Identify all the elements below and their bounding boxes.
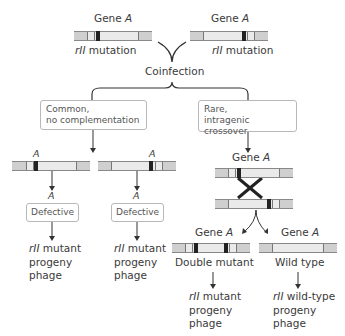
defective-label: Defective <box>116 207 159 217</box>
gene-a-label-left: Gene A <box>94 12 132 24</box>
a-label: A <box>133 190 140 201</box>
mutation-marker <box>237 168 241 178</box>
a-label: A <box>149 148 156 159</box>
chromosome-crossover-top <box>215 168 293 178</box>
defective-label: Defective <box>31 207 74 217</box>
common-no-complementation-box: Common, no complementation <box>40 100 147 130</box>
mutation-marker <box>242 31 246 41</box>
mutation-marker <box>149 161 153 171</box>
a-label: A <box>48 190 55 201</box>
chromosome-defective-right <box>98 161 176 171</box>
mutation-marker <box>267 199 271 209</box>
box-line: intragenic crossover <box>204 115 291 137</box>
chromosome-defective-left <box>12 161 90 171</box>
mutation-marker <box>194 243 198 253</box>
outcome-rii-wild-type: rII wild-type progeny phage <box>273 290 335 331</box>
box-line: no complementation <box>46 115 141 126</box>
outcome-rii-mutant-double: rII mutant progeny phage <box>189 290 241 331</box>
gene-a-label-double: Gene A <box>195 226 233 238</box>
defective-box-right: Defective <box>111 203 164 222</box>
chromosome-right-mutant <box>190 31 268 41</box>
chromosome-wild-type <box>259 243 337 253</box>
mutation-marker <box>96 31 100 41</box>
a-label: A <box>33 148 40 159</box>
outcome-rii-mutant-middle: rII mutant progeny phage <box>114 242 166 283</box>
gene-a-label-wild: Gene A <box>281 226 319 238</box>
mutation-marker <box>34 161 38 171</box>
gene-a-label-right: Gene A <box>211 12 249 24</box>
double-mutant-label: Double mutant <box>175 256 254 268</box>
gene-a-label-crossover: Gene A <box>232 151 270 163</box>
box-line: Rare, <box>204 104 291 115</box>
rii-mutation-label-right: rII mutation <box>212 44 273 56</box>
box-line: Common, <box>46 104 141 115</box>
chromosome-crossover-bottom <box>215 199 293 209</box>
outcome-rii-mutant-left: rII mutant progeny phage <box>29 242 81 283</box>
chromosome-left-mutant <box>74 31 152 41</box>
mutation-marker <box>224 243 228 253</box>
coinfection-label: Coinfection <box>145 65 204 77</box>
defective-box-left: Defective <box>26 203 79 222</box>
wild-type-label: Wild type <box>275 256 324 268</box>
rare-intragenic-crossover-box: Rare, intragenic crossover <box>198 100 297 132</box>
chromosome-double-mutant <box>172 243 250 253</box>
rii-mutation-label-left: rII mutation <box>75 44 136 56</box>
